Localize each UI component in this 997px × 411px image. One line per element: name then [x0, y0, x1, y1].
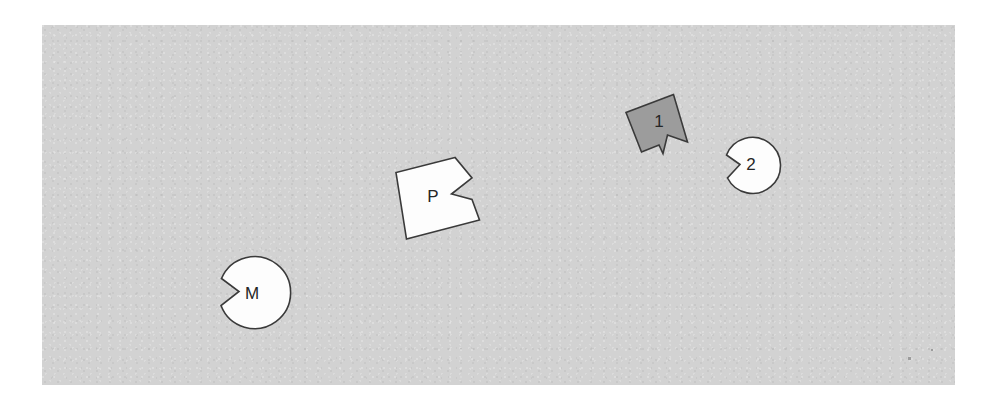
shape-2[interactable]: 2	[727, 137, 781, 193]
shape-1[interactable]: 1	[626, 95, 688, 154]
shape-2-label: 2	[746, 155, 755, 174]
figure-page: M P 1 2	[0, 0, 997, 411]
shape-1-label: 1	[654, 112, 663, 131]
shape-p[interactable]: P	[396, 158, 480, 240]
shape-m[interactable]: M	[221, 257, 291, 329]
shape-p-label: P	[427, 187, 438, 206]
figure-shapes: M P 1 2	[0, 0, 997, 411]
shape-m-label: M	[245, 284, 259, 303]
